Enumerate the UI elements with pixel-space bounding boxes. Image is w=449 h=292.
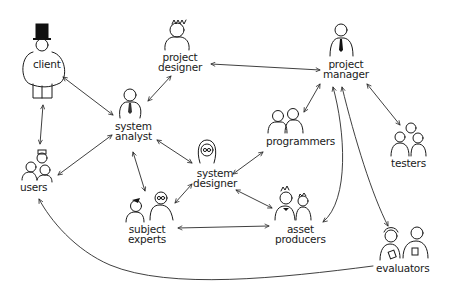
label-line: designer (193, 178, 237, 188)
users-figure-icon (22, 150, 52, 182)
label-line: programmers (266, 136, 335, 146)
programmers-figure-icon (268, 109, 303, 134)
project-manager-figure-icon (330, 24, 353, 56)
node-testers: testers (391, 158, 426, 168)
system-designer-figure-icon (198, 140, 216, 163)
label-line: users (20, 182, 47, 192)
testers-figure-icon (391, 123, 426, 156)
stakeholder-diagram: client project designer project manager … (0, 0, 449, 292)
node-subject-experts: subject experts (128, 224, 166, 244)
node-system-analyst: system analyst (115, 121, 152, 141)
label-line: testers (391, 158, 426, 168)
node-asset-producers: asset producers (275, 224, 326, 244)
node-evaluators: evaluators (376, 263, 429, 273)
label-line: client (33, 59, 61, 69)
project-designer-figure-icon (165, 20, 189, 50)
node-project-designer: project designer (158, 52, 202, 72)
evaluators-figure-icon (380, 227, 428, 260)
label-line: evaluators (376, 263, 429, 273)
node-programmers: programmers (266, 136, 335, 146)
node-users: users (20, 182, 47, 192)
subject-experts-figure-icon (126, 192, 173, 222)
asset-producers-figure-icon (275, 186, 311, 220)
figure-layer (0, 0, 449, 292)
label-line: producers (275, 234, 326, 244)
label-line: manager (323, 69, 369, 79)
label-line: experts (128, 234, 166, 244)
label-line: analyst (115, 131, 152, 141)
node-client: client (33, 59, 61, 69)
node-project-manager: project manager (323, 59, 369, 79)
system-analyst-figure-icon (120, 89, 141, 118)
node-system-designer: system designer (193, 168, 237, 188)
label-line: designer (158, 62, 202, 72)
